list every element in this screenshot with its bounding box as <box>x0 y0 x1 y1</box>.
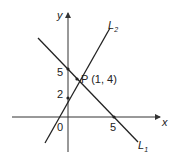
tick-x5: 5 <box>110 122 116 133</box>
tick-y2: 2 <box>57 89 63 100</box>
line-l2-label: L2 <box>108 20 118 33</box>
line-l1 <box>38 38 138 142</box>
point-y2 <box>66 96 69 99</box>
point-y5 <box>66 67 69 70</box>
point-p-label: P (1, 4) <box>81 74 117 85</box>
line-l1-label: L1 <box>138 140 148 153</box>
origin-label: 0 <box>57 122 63 133</box>
tick-y5: 5 <box>57 67 63 78</box>
line-l2 <box>45 28 110 143</box>
point-p <box>75 77 78 80</box>
y-axis-label: y <box>57 10 63 21</box>
point-x5 <box>112 115 115 118</box>
x-axis-label: x <box>162 117 168 128</box>
